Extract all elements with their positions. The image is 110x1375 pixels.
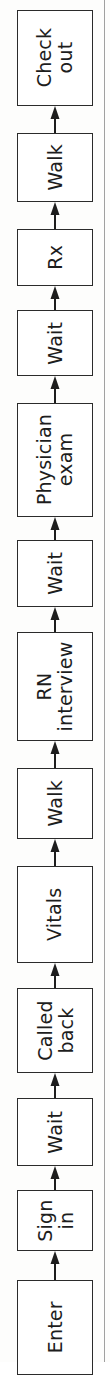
step-label-called-back: Called back — [34, 1000, 75, 1060]
arrow-physician-exam-to-wait-3 — [0, 376, 110, 403]
step-label-vitals: Vitals — [45, 888, 66, 941]
step-label-walk-2: Walk — [45, 144, 66, 190]
step-box-wait-1[interactable]: Wait — [17, 1098, 93, 1166]
step-box-wait-2[interactable]: Wait — [17, 540, 93, 607]
step-box-called-back[interactable]: Called back — [17, 988, 93, 1073]
arrow-sign-in-to-wait-1 — [0, 1166, 110, 1190]
step-label-physician-exam: Physician exam — [34, 414, 75, 505]
step-label-walk-1: Walk — [45, 780, 66, 826]
step-box-enter[interactable]: Enter — [17, 1280, 93, 1375]
step-label-sign-in: Sign in — [34, 1199, 75, 1241]
step-label-rn-interview: RN interview — [34, 642, 75, 732]
step-box-walk-2[interactable]: Walk — [17, 133, 93, 202]
step-box-wait-3[interactable]: Wait — [17, 310, 93, 376]
step-box-rn-interview[interactable]: RN interview — [17, 632, 93, 741]
step-label-rx: Rx — [45, 245, 66, 270]
step-box-walk-1[interactable]: Walk — [17, 768, 93, 839]
step-box-physician-exam[interactable]: Physician exam — [17, 403, 93, 517]
step-label-wait-2: Wait — [45, 552, 66, 595]
arrow-enter-to-sign-in — [0, 1251, 110, 1280]
arrow-rx-to-walk-2 — [0, 202, 110, 229]
step-box-sign-in[interactable]: Sign in — [17, 1190, 93, 1251]
step-label-wait-1: Wait — [45, 1111, 66, 1154]
arrow-wait-1-to-called-back — [0, 1073, 110, 1098]
step-box-rx[interactable]: Rx — [17, 229, 93, 286]
arrow-walk-2-to-check-out — [0, 106, 110, 133]
step-label-wait-3: Wait — [45, 322, 66, 365]
step-label-enter: Enter — [45, 1301, 66, 1353]
arrow-wait-3-to-rx — [0, 286, 110, 310]
step-box-vitals[interactable]: Vitals — [17, 866, 93, 963]
arrow-vitals-to-walk-1 — [0, 839, 110, 866]
step-box-check-out[interactable]: Check out — [17, 10, 93, 106]
arrow-called-back-to-vitals — [0, 963, 110, 988]
page-edge-rule — [104, 0, 105, 1362]
arrow-wait-2-to-physician-exam — [0, 517, 110, 540]
step-label-check-out: Check out — [34, 28, 75, 87]
arrow-rn-interview-to-wait-2 — [0, 607, 110, 632]
arrow-walk-1-to-rn-interview — [0, 741, 110, 768]
